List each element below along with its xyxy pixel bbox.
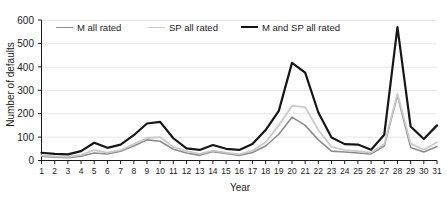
chart-figure: Number of defaults 0 100 200 300 400 500… bbox=[0, 0, 447, 199]
legend-item-sp-all-rated[interactable]: SP all rated bbox=[148, 21, 218, 35]
legend-label-m-all-rated: M all rated bbox=[77, 21, 121, 35]
legend-label-sp-all-rated: SP all rated bbox=[169, 21, 218, 35]
legend-label-m-and-sp-all-rated: M and SP all rated bbox=[262, 21, 340, 35]
x-tick-label-31: 31 bbox=[429, 166, 445, 176]
legend-item-m-and-sp-all-rated[interactable]: M and SP all rated bbox=[241, 21, 340, 35]
series-lines bbox=[42, 27, 438, 158]
legend-swatch-m-all-rated bbox=[56, 27, 73, 28]
series-line-sp-all-rated bbox=[42, 94, 438, 157]
gridlines bbox=[41, 21, 437, 138]
x-tick-marks bbox=[42, 161, 438, 165]
y-tick-marks bbox=[38, 20, 42, 161]
x-axis-title: Year bbox=[40, 182, 440, 194]
legend-swatch-m-and-sp-all-rated bbox=[241, 26, 258, 28]
legend-item-m-all-rated[interactable]: M all rated bbox=[56, 21, 121, 35]
legend-swatch-sp-all-rated bbox=[148, 27, 165, 28]
